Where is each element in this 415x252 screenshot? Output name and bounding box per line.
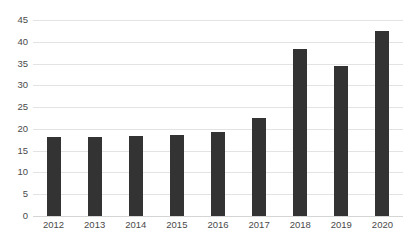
bar [375, 31, 389, 216]
y-tick-label: 35 [6, 59, 28, 69]
y-axis: 051015202530354045 [0, 20, 28, 216]
x-tick-label: 2014 [116, 219, 156, 230]
x-tick-label: 2020 [362, 219, 402, 230]
y-tick-label: 30 [6, 81, 28, 91]
x-tick-label: 2013 [75, 219, 115, 230]
x-tick-label: 2019 [321, 219, 361, 230]
bar [252, 118, 266, 216]
x-tick-label: 2016 [198, 219, 238, 230]
x-axis: 201220132014201520162017201820192020 [33, 219, 403, 239]
y-tick-label: 10 [6, 168, 28, 178]
y-tick-label: 0 [6, 211, 28, 221]
bars-layer [33, 20, 403, 216]
y-tick-label: 5 [6, 189, 28, 199]
bar [211, 132, 225, 216]
bar [47, 137, 61, 216]
y-tick-label: 40 [6, 37, 28, 47]
y-tick-label: 45 [6, 15, 28, 25]
x-tick-label: 2012 [34, 219, 74, 230]
x-tick-label: 2017 [239, 219, 279, 230]
bar [334, 66, 348, 216]
y-tick-label: 25 [6, 102, 28, 112]
bar [88, 137, 102, 216]
bar [129, 136, 143, 216]
y-tick-label: 20 [6, 124, 28, 134]
y-tick-label: 15 [6, 146, 28, 156]
x-tick-label: 2015 [157, 219, 197, 230]
x-tick-label: 2018 [280, 219, 320, 230]
bar-chart: 051015202530354045 201220132014201520162… [0, 0, 415, 252]
bar [293, 49, 307, 216]
gridline-0 [33, 216, 403, 217]
bar [170, 135, 184, 216]
